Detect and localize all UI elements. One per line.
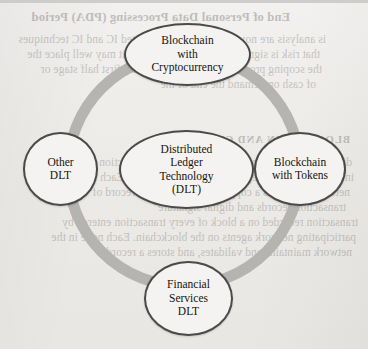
node-label-distributed-ledger-technology: Distributed Ledger Technology (DLT) (155, 143, 217, 196)
node-other-dlt[interactable]: Other DLT (23, 132, 98, 206)
node-distributed-ledger-technology[interactable]: Distributed Ledger Technology (DLT) (119, 130, 254, 209)
node-financial-services-dlt[interactable]: Financial Services DLT (144, 261, 233, 336)
node-blockchain-with-tokens[interactable]: Blockchain with Tokens (254, 132, 346, 206)
node-label-other-dlt: Other DLT (43, 156, 77, 183)
node-label-blockchain-with-tokens: Blockchain with Tokens (268, 156, 332, 183)
node-label-financial-services-dlt: Financial Services DLT (163, 278, 214, 318)
scanned-page: End of Personal Data Processing (PDA) Pe… (0, 0, 368, 349)
node-label-blockchain-with-cryptocurrency: Blockchain with Cryptocurrency (147, 34, 227, 74)
node-blockchain-with-cryptocurrency[interactable]: Blockchain with Cryptocurrency (124, 23, 251, 86)
